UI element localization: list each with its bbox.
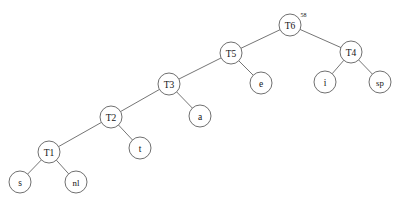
tree-edge-t6-t4	[300, 29, 341, 47]
tree-edge-t3-t2	[121, 89, 160, 111]
node-label-e: e	[259, 79, 263, 89]
tree-edge-t4-sp	[359, 60, 373, 74]
binary-tree-diagram: T658T5T4T3eispT2atT1snl	[0, 0, 398, 203]
node-superscript-t6: 58	[301, 12, 307, 18]
tree-node-t3[interactable]: T3	[158, 73, 180, 95]
tree-node-t4[interactable]: T4	[340, 41, 362, 63]
tree-edge-t2-t	[119, 125, 133, 140]
tree-node-nl[interactable]: nl	[65, 171, 87, 193]
tree-node-sp[interactable]: sp	[369, 71, 391, 93]
tree-node-t2[interactable]: T2	[100, 106, 122, 128]
tree-node-t5[interactable]: T5	[220, 42, 242, 64]
tree-nodes-group: T658T5T4T3eispT2atT1snl	[9, 12, 391, 194]
tree-edge-t1-s	[28, 160, 42, 174]
tree-node-t1[interactable]: T1	[38, 141, 60, 163]
tree-node-e[interactable]: e	[250, 72, 272, 94]
node-label-t2: T2	[106, 113, 117, 123]
tree-edge-t5-e	[239, 61, 253, 75]
node-label-t1: T1	[44, 148, 55, 158]
node-label-t3: T3	[164, 80, 175, 90]
node-label-t6: T6	[285, 21, 296, 31]
diagram-canvas: T658T5T4T3eispT2atT1snl	[0, 0, 398, 203]
node-label-t4: T4	[346, 48, 357, 58]
node-label-s: s	[18, 178, 22, 188]
tree-edge-t2-t1	[59, 122, 102, 146]
tree-edge-t4-i	[332, 60, 344, 73]
node-label-nl: nl	[73, 178, 80, 188]
tree-edge-t3-a	[177, 92, 193, 108]
tree-node-s[interactable]: s	[9, 171, 31, 193]
tree-node-i[interactable]: i	[314, 71, 336, 93]
node-label-t: t	[139, 144, 142, 154]
tree-edge-t5-t3	[179, 58, 221, 79]
tree-node-a[interactable]: a	[189, 105, 211, 127]
tree-edge-t1-nl	[56, 160, 68, 174]
tree-edges-group	[28, 29, 373, 174]
node-label-i: i	[324, 78, 327, 88]
node-label-t5: T5	[226, 49, 237, 59]
tree-edge-t6-t5	[241, 30, 280, 49]
tree-node-t6[interactable]: T658	[279, 12, 307, 37]
tree-node-t[interactable]: t	[129, 137, 151, 159]
node-label-sp: sp	[376, 78, 384, 88]
